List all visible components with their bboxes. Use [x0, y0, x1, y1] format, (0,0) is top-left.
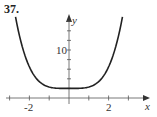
x-tick-label-2: 2 [106, 101, 112, 113]
x-tick-label-neg2: -2 [24, 101, 33, 113]
axes [6, 14, 150, 104]
y-axis-label: y [71, 14, 77, 26]
x-axis-label: x [144, 100, 150, 112]
y-tick-label-10: 10 [56, 44, 68, 56]
chart: x y -2 2 10 [0, 0, 157, 117]
